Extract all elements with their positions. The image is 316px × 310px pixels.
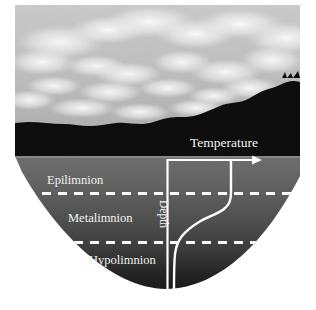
epilimnion-label: Epilimnion (47, 173, 104, 187)
metalimnion-label: Metalimnion (68, 211, 133, 225)
hypolimnion-label: Hypolimnion (89, 253, 156, 267)
stratification-figure: Temperature Depth Epilimnion Metalimnion… (0, 0, 316, 310)
depth-axis-label: Depth (157, 200, 170, 228)
lake-stratification-diagram: Temperature Depth Epilimnion Metalimnion… (0, 0, 316, 310)
lake-photograph (4, 5, 316, 156)
photo-grain-overlay (15, 5, 300, 156)
temperature-axis-label: Temperature (190, 135, 258, 150)
